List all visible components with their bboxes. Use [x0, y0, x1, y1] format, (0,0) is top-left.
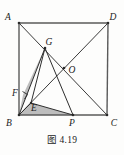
- figure-caption: 图 4.19: [0, 132, 124, 146]
- vertex-label-A: A: [4, 12, 11, 22]
- vertex-dot-C: [106, 114, 109, 117]
- vertex-label-B: B: [6, 118, 12, 128]
- side-DC: [107, 23, 108, 115]
- vertex-dot-G: [44, 47, 47, 50]
- vertex-dot-P: [72, 114, 75, 117]
- vertex-label-E: E: [30, 103, 37, 113]
- vertex-dot-O: [63, 67, 66, 70]
- vertex-dot-D: [107, 22, 110, 25]
- segment-GP: [45, 48, 73, 115]
- vertex-label-C: C: [111, 118, 118, 128]
- geometry-figure: A D B C G O P F E 图 4.19: [0, 0, 124, 155]
- vertex-label-G: G: [46, 37, 53, 47]
- vertex-dot-A: [18, 22, 21, 25]
- vertex-label-D: D: [109, 12, 117, 22]
- vertex-label-P: P: [68, 118, 75, 128]
- vertex-label-F: F: [11, 88, 18, 98]
- vertex-label-O: O: [69, 65, 76, 75]
- vertex-dot-B: [18, 114, 21, 117]
